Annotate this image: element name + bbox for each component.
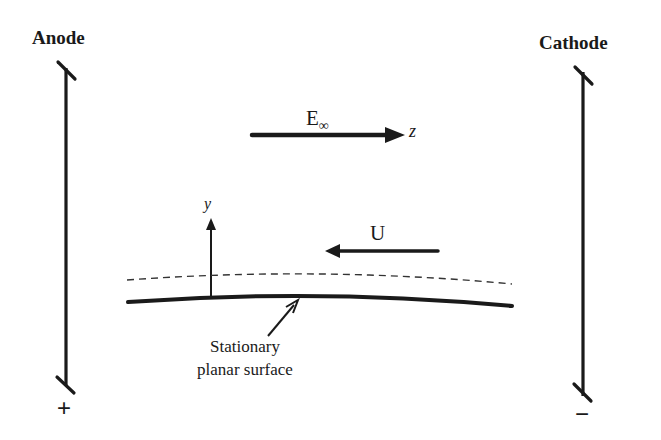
anode-electrode <box>57 62 75 393</box>
dashed-shear-plane <box>127 274 512 284</box>
electroosmosis-diagram: Anode Cathode + − E∞ z y U Stationary pl… <box>0 0 661 440</box>
cathode-electrode <box>574 67 592 401</box>
field-symbol: E <box>306 106 319 130</box>
surface-caption-line1: Stationary <box>180 335 310 358</box>
cathode-polarity: − <box>575 400 589 428</box>
velocity-label: U <box>370 221 385 246</box>
y-axis-arrow <box>206 218 216 297</box>
field-subscript: ∞ <box>319 118 329 133</box>
surface-pointer-arrow <box>268 300 298 336</box>
surface-caption-line2: planar surface <box>180 358 310 381</box>
stationary-surface <box>128 296 512 306</box>
anode-label: Anode <box>32 27 85 49</box>
y-axis-label: y <box>204 195 211 213</box>
cathode-label: Cathode <box>539 32 608 54</box>
field-label: E∞ <box>306 106 329 134</box>
surface-caption: Stationary planar surface <box>180 335 310 381</box>
diagram-graphics <box>0 0 661 440</box>
anode-polarity: + <box>57 394 71 422</box>
z-axis-label: z <box>409 121 416 142</box>
velocity-arrow <box>325 244 438 258</box>
